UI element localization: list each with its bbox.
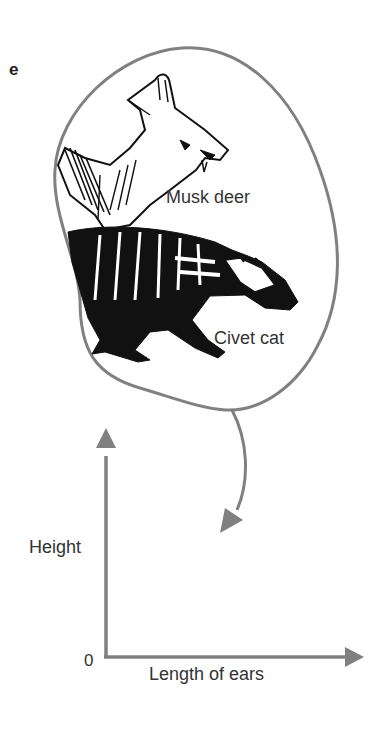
civet-cat-label: Civet cat — [214, 328, 284, 349]
connector-arrow — [232, 410, 246, 510]
origin-label: 0 — [84, 651, 93, 671]
y-axis-arrowhead — [96, 428, 116, 448]
connector-arrowhead — [220, 508, 243, 533]
y-axis-label: Height — [29, 537, 81, 558]
diagram-canvas — [0, 0, 390, 739]
x-axis-arrowhead — [345, 647, 364, 667]
musk-deer-label: Musk deer — [166, 187, 250, 208]
x-axis-label: Length of ears — [149, 664, 264, 685]
